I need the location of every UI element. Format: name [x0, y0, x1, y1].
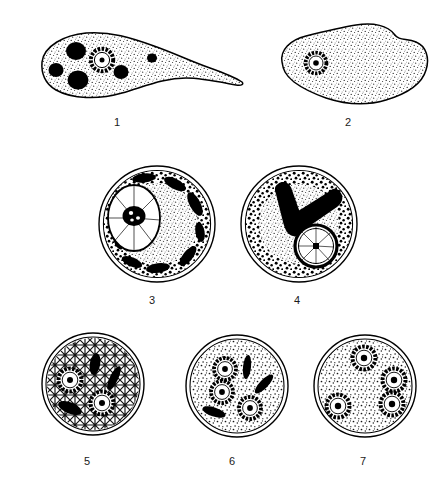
figure-2-caption: 2 [328, 116, 368, 128]
figure-6-caption: 6 [212, 455, 252, 467]
figure-3-caption: 3 [132, 294, 172, 306]
nucleus-7a [353, 347, 376, 370]
figure-2-precystic [266, 16, 432, 112]
figure-3-young-cyst [96, 162, 218, 286]
figure-1-caption: 1 [97, 116, 137, 128]
figure-1-trophozoite [14, 18, 246, 114]
nucleus-4 [295, 225, 337, 267]
nucleus-2 [306, 53, 327, 74]
cell-body-2 [282, 24, 428, 104]
figure-4-cyst-chromatoid-bars [238, 162, 360, 286]
cytoplasm-6 [191, 340, 283, 432]
nucleus-7d [327, 395, 350, 418]
figure-7-caption: 7 [343, 455, 383, 467]
nucleus-7b [383, 369, 406, 392]
cell-body-1 [42, 33, 243, 98]
nucleus-6a [214, 358, 236, 380]
nucleus-6c [239, 397, 261, 419]
figure-5-binucleate-cyst [40, 330, 146, 438]
nucleus-6b [211, 381, 233, 403]
illustration-plate: 1 2 [0, 0, 440, 478]
nucleus-7c [381, 393, 404, 416]
figure-6-trinucleate-cyst [184, 332, 290, 440]
figure-5-caption: 5 [67, 455, 107, 467]
nucleus-3 [108, 185, 160, 251]
figure-7-quadrinucleate-cyst [312, 332, 418, 440]
nucleus-5b [91, 392, 114, 415]
figure-4-caption: 4 [277, 294, 317, 306]
nucleus-5a [59, 369, 82, 392]
nucleus-1 [91, 49, 113, 71]
